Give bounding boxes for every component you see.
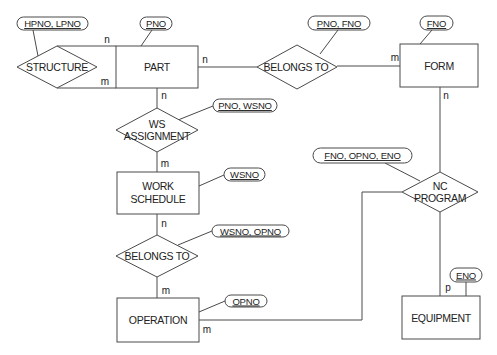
- entity-label: EQUIPMENT: [411, 312, 472, 324]
- entity-part: PART: [116, 46, 198, 88]
- structure-key-line: [33, 30, 38, 56]
- work-schedule-key-line: [199, 175, 224, 186]
- cardinality-label: n: [443, 90, 449, 101]
- part-key-line: [141, 30, 152, 46]
- attribute-label: FNO: [427, 18, 446, 29]
- attribute-nc-program-key: FNO, OPNO, ENO: [313, 148, 412, 163]
- entity-form: FORM: [400, 44, 478, 87]
- cardinality-label: n: [104, 34, 110, 45]
- cardinality-label: n: [161, 90, 167, 101]
- attribute-equipment-key: ENO: [450, 268, 482, 282]
- relationship-label-line1: WS: [149, 118, 166, 130]
- attribute-label: OPNO: [232, 296, 259, 307]
- relationship-structure: STRUCTURE: [17, 46, 97, 88]
- attribute-label: PNO, FNO: [317, 18, 361, 29]
- entity-label: PART: [144, 61, 171, 73]
- cardinality-label: p: [445, 282, 451, 293]
- attribute-belongs-to-operation-key: WSNO, OPNO: [212, 225, 289, 237]
- relationship-label-line2: ASSIGNMENT: [124, 130, 191, 142]
- entity-work-schedule: WORK SCHEDULE: [117, 172, 199, 214]
- relationship-label: BELONGS TO: [264, 61, 329, 73]
- attribute-label: WSNO, OPNO: [220, 226, 281, 237]
- entity-label-line2: SCHEDULE: [131, 193, 186, 205]
- belongs-to-form-key-line: [320, 30, 338, 54]
- attribute-operation-key: OPNO: [225, 295, 267, 307]
- operation-key-line: [199, 301, 225, 312]
- entity-label: FORM: [424, 60, 454, 72]
- relationship-label-line2: PROGRAM: [414, 192, 466, 204]
- cardinality-label: m: [101, 76, 109, 87]
- attribute-label: FNO, OPNO, ENO: [324, 150, 400, 161]
- entity-operation: OPERATION: [117, 298, 199, 342]
- attribute-work-schedule-key: WSNO: [224, 168, 265, 181]
- entity-equipment: EQUIPMENT: [402, 296, 480, 339]
- er-diagram: PART FORM WORK SCHEDULE OPERATION EQUIPM…: [0, 0, 497, 355]
- cardinality-label: n: [161, 218, 167, 229]
- nc-program-key-line: [385, 163, 420, 181]
- attribute-ws-assignment-key: PNO, WSNO: [213, 99, 277, 112]
- relationship-ws-assignment: WS ASSIGNMENT: [116, 108, 198, 152]
- attribute-form-key: FNO: [420, 16, 453, 30]
- ws-assignment-key-line: [178, 106, 213, 120]
- attribute-label: PNO, WSNO: [218, 100, 272, 111]
- relationship-label-line1: NC: [433, 180, 448, 192]
- attribute-label: PNO: [146, 18, 166, 29]
- attribute-label: ENO: [456, 270, 476, 281]
- attribute-belongs-to-form-key: PNO, FNO: [308, 16, 370, 30]
- cardinality-label: n: [202, 54, 208, 65]
- attribute-part-key: PNO: [140, 17, 172, 30]
- relationship-belongs-to-form: BELONGS TO: [257, 45, 337, 89]
- attribute-label: HPNO, LPNO: [24, 18, 81, 29]
- attribute-label: WSNO: [230, 169, 259, 180]
- cardinality-label: m: [162, 285, 170, 296]
- attribute-structure-key: HPNO, LPNO: [17, 17, 88, 30]
- entity-label: OPERATION: [129, 314, 187, 326]
- entity-label-line1: WORK: [142, 180, 174, 192]
- cardinality-label: m: [391, 52, 399, 63]
- relationship-label: BELONGS TO: [125, 250, 190, 262]
- cardinality-label: m: [203, 324, 211, 335]
- belongs-to-operation-key-line: [178, 231, 212, 245]
- relationship-label: STRUCTURE: [26, 61, 88, 73]
- form-key-line: [420, 30, 432, 44]
- cardinality-label: m: [161, 158, 169, 169]
